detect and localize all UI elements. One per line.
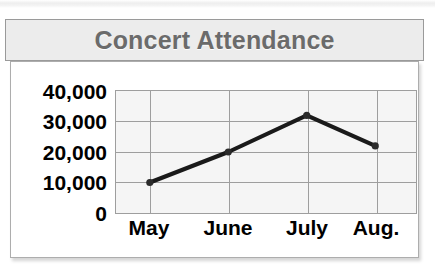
data-point-aug (372, 142, 379, 149)
x-axis-tick-label: June (203, 217, 252, 238)
x-axis-tick-label: May (129, 217, 170, 238)
y-axis-tick-label: 40,000 (43, 81, 107, 102)
data-point-markers (146, 112, 379, 186)
scan-artifact-band (0, 0, 435, 8)
data-point-may (146, 179, 153, 186)
plot-area (115, 90, 417, 214)
chart-figure: Concert Attendance 40,000 30,000 20,000 … (5, 19, 426, 259)
y-axis-tick-label: 30,000 (43, 111, 107, 132)
y-axis-tick-label: 20,000 (43, 142, 107, 163)
chart-title: Concert Attendance (94, 26, 334, 55)
chart-title-banner: Concert Attendance (5, 19, 424, 61)
y-axis-tick-label: 10,000 (43, 172, 107, 193)
x-axis-tick-label: July (286, 217, 328, 238)
chart-body: 40,000 30,000 20,000 10,000 0 May June J (10, 61, 419, 258)
y-axis-tick-label: 0 (95, 203, 107, 224)
data-point-july (303, 112, 310, 119)
x-axis-tick-label: Aug. (353, 217, 400, 238)
series-line-concert-attendance (116, 91, 416, 213)
x-axis-tick-labels: May June July Aug. (115, 217, 417, 251)
y-axis-tick-labels: 40,000 30,000 20,000 10,000 0 (11, 62, 112, 259)
data-point-june (225, 148, 232, 155)
